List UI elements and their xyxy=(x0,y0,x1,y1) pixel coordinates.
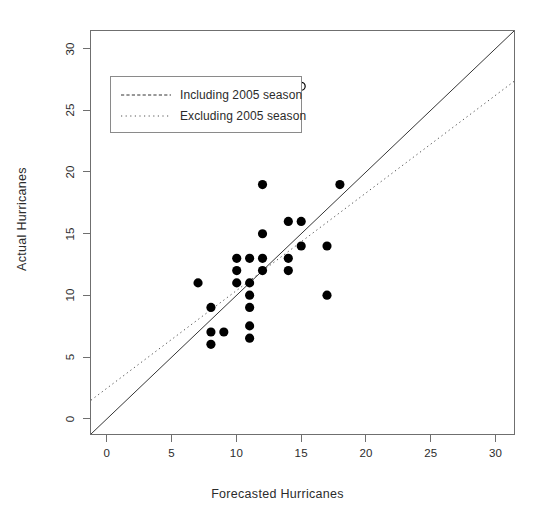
x-tick-label: 10 xyxy=(230,447,243,459)
x-tick-label: 15 xyxy=(295,447,308,459)
x-tick-label: 30 xyxy=(489,447,502,459)
data-point xyxy=(258,266,267,275)
legend-line-solid-icon xyxy=(120,90,172,100)
x-axis-title: Forecasted Hurricanes xyxy=(0,487,555,501)
legend-line-dotted-icon xyxy=(120,111,172,121)
x-tick-label: 25 xyxy=(424,447,437,459)
data-point xyxy=(284,217,293,226)
y-tick-label: 0 xyxy=(64,409,76,429)
y-tick-mark xyxy=(83,171,90,172)
y-tick-mark xyxy=(83,418,90,419)
data-point xyxy=(322,291,331,300)
legend-label-including: Including 2005 season xyxy=(180,88,302,102)
x-tick-label: 0 xyxy=(104,447,111,459)
x-tick-mark xyxy=(430,435,431,442)
x-tick-mark xyxy=(301,435,302,442)
x-tick-mark xyxy=(365,435,366,442)
y-tick-mark xyxy=(83,357,90,358)
x-tick-mark xyxy=(171,435,172,442)
x-tick-mark xyxy=(495,435,496,442)
data-point xyxy=(245,321,254,330)
data-point xyxy=(245,291,254,300)
data-point xyxy=(322,241,331,250)
y-tick-mark xyxy=(83,110,90,111)
scatter-plot-figure: 051015202530 051015202530 Forecasted Hur… xyxy=(0,0,555,525)
x-tick-label: 20 xyxy=(359,447,372,459)
y-tick-mark xyxy=(83,233,90,234)
y-tick-label: 30 xyxy=(64,39,76,59)
x-tick-label: 5 xyxy=(168,447,175,459)
data-point xyxy=(245,334,254,343)
data-point xyxy=(232,278,241,287)
legend: Including 2005 season Excluding 2005 sea… xyxy=(110,76,302,133)
legend-item-excluding: Excluding 2005 season xyxy=(120,105,292,126)
data-point xyxy=(206,303,215,312)
y-tick-label: 20 xyxy=(64,162,76,182)
data-point xyxy=(193,278,202,287)
y-tick-label: 10 xyxy=(64,285,76,305)
data-point xyxy=(206,327,215,336)
legend-label-excluding: Excluding 2005 season xyxy=(180,109,306,123)
data-point xyxy=(297,241,306,250)
legend-item-including: Including 2005 season xyxy=(120,84,292,105)
x-tick-mark xyxy=(236,435,237,442)
data-point xyxy=(284,254,293,263)
data-point xyxy=(258,180,267,189)
data-point xyxy=(245,254,254,263)
y-axis-title: Actual Hurricanes xyxy=(15,119,29,319)
data-point xyxy=(232,266,241,275)
data-point xyxy=(284,266,293,275)
data-point xyxy=(335,180,344,189)
data-point xyxy=(245,303,254,312)
y-tick-mark xyxy=(83,48,90,49)
data-point xyxy=(219,327,228,336)
y-tick-label: 15 xyxy=(64,224,76,244)
data-point xyxy=(232,254,241,263)
data-point xyxy=(258,254,267,263)
data-point xyxy=(206,340,215,349)
y-tick-mark xyxy=(83,295,90,296)
x-tick-mark xyxy=(106,435,107,442)
y-tick-label: 25 xyxy=(64,100,76,120)
data-point xyxy=(297,217,306,226)
y-tick-label: 5 xyxy=(64,347,76,367)
data-point xyxy=(258,229,267,238)
data-point xyxy=(245,278,254,287)
